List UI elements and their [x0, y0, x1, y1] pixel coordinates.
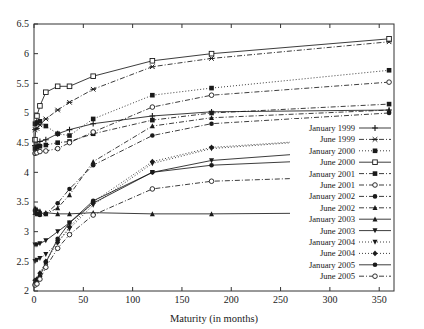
- y-tick-label: 6.5: [17, 18, 30, 29]
- data-point-filled-square: [91, 117, 96, 122]
- data-point-open-square: [373, 160, 378, 165]
- data-point-filled-circle: [55, 236, 60, 241]
- data-point-open-square: [209, 51, 214, 56]
- legend-item-label: June 2005: [320, 271, 355, 281]
- y-tick-label: 5.5: [17, 78, 30, 89]
- data-point-filled-circle: [91, 199, 96, 204]
- data-point-open-circle: [67, 140, 72, 145]
- x-tick-label: 150: [174, 294, 189, 305]
- data-point-filled-square: [209, 111, 214, 116]
- data-point-open-circle: [150, 105, 155, 110]
- data-point-filled-circle: [209, 121, 214, 126]
- y-tick-label: 2.5: [17, 256, 30, 267]
- data-point-open-circle: [55, 246, 60, 251]
- legend-item-label: June 2001: [320, 180, 355, 190]
- data-point-open-circle: [91, 130, 96, 135]
- data-point-open-circle: [150, 187, 155, 192]
- x-tick-label: 200: [224, 294, 239, 305]
- y-tick-label: 4: [24, 167, 29, 178]
- legend-item-label: January 2001: [309, 169, 355, 179]
- legend-item-label: January 2005: [309, 260, 355, 270]
- data-point-triangle: [91, 159, 96, 164]
- data-point-filled-square: [38, 144, 43, 149]
- data-point-filled-square: [150, 118, 155, 123]
- data-point-down-triangle: [43, 238, 48, 243]
- data-point-open-square: [38, 104, 43, 109]
- yield-curve-chart: 22.533.544.555.566.505010015020025030035…: [0, 0, 424, 329]
- data-point-open-circle: [373, 274, 378, 279]
- data-point-filled-square: [38, 119, 43, 124]
- x-axis-title: Maturity (in months): [170, 313, 259, 325]
- data-point-triangle: [67, 192, 72, 197]
- y-tick-label: 4.5: [17, 137, 30, 148]
- data-point-open-circle: [38, 277, 43, 282]
- data-point-star: [150, 64, 156, 69]
- data-point-filled-square: [373, 149, 378, 154]
- data-point-filled-square: [373, 171, 378, 176]
- legend-item-label: June 2004: [320, 248, 356, 258]
- y-tick-label: 6: [24, 48, 29, 59]
- y-tick-label: 3: [24, 226, 29, 237]
- data-point-filled-circle: [55, 201, 60, 206]
- x-tick-label: 350: [372, 294, 387, 305]
- data-point-filled-square: [44, 143, 49, 148]
- x-tick-label: 0: [32, 294, 37, 305]
- data-point-filled-square: [67, 133, 72, 138]
- data-point-filled-circle: [150, 133, 155, 138]
- y-tick-label: 2: [24, 285, 29, 296]
- data-point-open-square: [35, 114, 40, 119]
- x-tick-label: 250: [273, 294, 288, 305]
- data-point-plus: [43, 137, 49, 143]
- data-point-open-circle: [387, 80, 392, 85]
- data-point-filled-circle: [150, 170, 155, 175]
- data-point-filled-square: [387, 68, 392, 73]
- legend-item-label: June 2002: [320, 203, 355, 213]
- data-point-open-circle: [44, 265, 49, 270]
- data-point-open-circle: [91, 213, 96, 218]
- data-point-diamond: [209, 145, 214, 151]
- x-tick-label: 100: [125, 294, 140, 305]
- data-point-open-square: [55, 84, 60, 89]
- data-point-star: [209, 56, 215, 61]
- legend-item-label: June 2003: [320, 226, 355, 236]
- data-point-diamond: [150, 159, 155, 165]
- data-point-open-circle: [209, 179, 214, 184]
- data-point-open-circle: [44, 149, 49, 154]
- legend-item-label: January 1999: [309, 123, 355, 133]
- data-point-filled-square: [55, 131, 60, 136]
- legend-item-label: January 2004: [309, 237, 356, 247]
- data-point-filled-square: [55, 140, 60, 145]
- legend-item-label: January 2002: [309, 191, 355, 201]
- legend-item-label: June 2000: [320, 157, 355, 167]
- data-point-open-circle: [38, 149, 43, 154]
- data-point-open-circle: [35, 282, 40, 287]
- data-point-filled-circle: [67, 187, 72, 192]
- data-point-open-circle: [67, 232, 72, 237]
- data-point-open-circle: [209, 93, 214, 98]
- data-point-filled-circle: [67, 220, 72, 225]
- data-point-star: [90, 87, 96, 92]
- data-point-filled-square: [209, 86, 214, 91]
- legend-item-label: January 2000: [309, 146, 355, 156]
- data-point-star: [67, 100, 73, 105]
- data-point-open-square: [150, 58, 155, 63]
- legend-item-label: June 1999: [320, 134, 355, 144]
- data-point-open-square: [44, 90, 49, 95]
- data-point-open-square: [33, 137, 38, 142]
- data-point-filled-circle: [209, 163, 214, 168]
- x-tick-label: 50: [78, 294, 88, 305]
- data-point-filled-square: [387, 102, 392, 107]
- chart-legend[interactable]: January 1999June 1999January 2000June 20…: [290, 119, 393, 282]
- chart-canvas: 22.533.544.555.566.505010015020025030035…: [0, 0, 424, 329]
- data-point-star: [43, 117, 49, 122]
- legend-item-label: January 2003: [309, 214, 355, 224]
- y-tick-label: 3.5: [17, 196, 30, 207]
- data-point-triangle: [55, 205, 60, 210]
- x-tick-label: 300: [322, 294, 337, 305]
- data-point-open-square: [67, 84, 72, 89]
- data-point-plus: [90, 121, 96, 127]
- data-point-star: [55, 108, 61, 113]
- data-point-filled-circle: [373, 194, 378, 199]
- data-point-open-square: [387, 37, 392, 42]
- data-point-open-square: [91, 74, 96, 79]
